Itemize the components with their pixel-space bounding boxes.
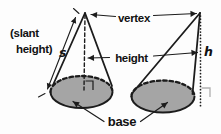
cone-diagram-canvas: (slant height) s vertex height h base — [0, 0, 221, 134]
height-symbol-label: h — [204, 44, 213, 59]
vertex-label: vertex — [118, 12, 151, 24]
slant-height-label-line1: (slant — [10, 27, 39, 39]
base-label: base — [108, 114, 137, 129]
slant-symbol-label: s — [59, 45, 66, 60]
cone-diagram: (slant height) s vertex height h base — [0, 0, 221, 134]
height-arrow-left — [88, 58, 110, 59]
height-label: height — [115, 52, 148, 64]
slant-height-label-line2: height) — [16, 43, 53, 55]
